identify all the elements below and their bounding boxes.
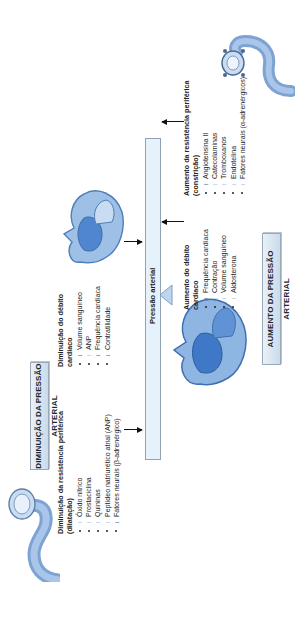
- list-item: ↑Angiotensina II: [201, 36, 210, 196]
- up-arrow-icon: [162, 221, 184, 222]
- down-arrow-icon: [124, 429, 142, 430]
- up-arrow-icon: ↑: [210, 181, 219, 188]
- up-arrow-icon: ↑: [84, 519, 93, 526]
- up-arrow-icon: ↑: [84, 352, 93, 359]
- list-item: ↑Quininas: [93, 374, 102, 534]
- small-heart-icon: [62, 182, 128, 272]
- down-arrow-icon: ↓: [93, 352, 102, 359]
- increase-title: AUMENTO DA PRESSÃO ARTERIAL: [266, 251, 291, 348]
- up-arrow-icon: [162, 121, 184, 122]
- down-arrow-icon: ↓: [112, 519, 121, 526]
- list-item: ↑Volume sanguíneo: [219, 200, 228, 310]
- up-arrow-icon: ↑: [238, 181, 247, 188]
- up-arrow-icon: ↑: [201, 295, 210, 302]
- increase-title-box: AUMENTO DA PRESSÃO ARTERIAL: [262, 233, 281, 365]
- up-arrow-icon: ↑: [201, 181, 210, 188]
- increase-output-heading-2: cardíaco: [191, 200, 200, 310]
- decrease-title-box: DIMINUIÇÃO DA PRESSÃO ARTERIAL: [30, 362, 49, 470]
- up-arrow-icon: ↑: [75, 519, 84, 526]
- up-arrow-icon: ↑: [93, 519, 102, 526]
- up-arrow-icon: ↑: [229, 181, 238, 188]
- decrease-resistance-block: Diminuição da resistência periférica (di…: [56, 374, 121, 534]
- up-arrow-icon: ↑: [229, 295, 238, 302]
- list-item: ↑Contração: [210, 200, 219, 310]
- blood-pressure-label: Pressão arterial: [148, 268, 157, 324]
- constricted-vessel-icon: [215, 2, 295, 97]
- increase-resistance-heading-2: (constrição): [191, 36, 200, 196]
- down-arrow-icon: ↓: [75, 352, 84, 359]
- up-arrow-icon: ↑: [103, 519, 112, 526]
- up-arrow-icon: ↑: [219, 295, 228, 302]
- decrease-resistance-heading-1: Diminuição da resistência periférica: [56, 374, 65, 534]
- down-arrow-icon: ↓: [103, 352, 112, 359]
- list-item: ↓Fatores neurais (β-adrenérgico): [112, 374, 121, 534]
- increase-output-heading-1: Aumento do débito: [182, 200, 191, 310]
- list-item: ↑Óxido nítrico: [75, 374, 84, 534]
- up-arrow-icon: ↑: [219, 181, 228, 188]
- down-arrow-icon: [124, 241, 142, 242]
- dilated-vessel-icon: [2, 487, 60, 582]
- up-arrow-icon: ↑: [210, 295, 219, 302]
- list-item: ↑Peptídeo natriurético atrial (ANP): [103, 374, 112, 534]
- list-item: ↑Aldosterona: [229, 200, 238, 310]
- increase-resistance-heading-1: Aumento da resistência periférica: [182, 36, 191, 196]
- list-item: ↑Prostaciclina: [84, 374, 93, 534]
- decrease-resistance-heading-2: (dilatação): [65, 374, 74, 534]
- blood-pressure-diagram: DIMINUIÇÃO DA PRESSÃO ARTERIAL Diminuiçã…: [0, 0, 304, 642]
- increase-output-block: Aumento do débito cardíaco ↑Frequência c…: [182, 200, 238, 310]
- list-item: ↑Frequência cardíaca: [201, 200, 210, 310]
